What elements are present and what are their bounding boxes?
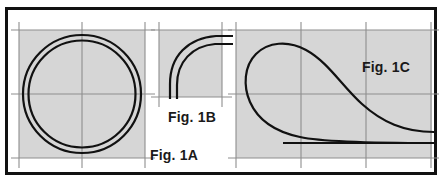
- fig-1a-label: Fig. 1A: [150, 147, 198, 163]
- panel-fig-1b-fill: [159, 30, 222, 97]
- figure-plate-canvas: Fig. 1A Fig. 1B Fig. 1C: [0, 0, 442, 182]
- panel-fig-1b: [151, 22, 233, 107]
- panel-fig-1c: [228, 22, 439, 168]
- fig-1b-label: Fig. 1B: [168, 109, 216, 125]
- figure-plate: Fig. 1A Fig. 1B Fig. 1C: [0, 0, 442, 182]
- panel-fig-1a: [11, 22, 155, 168]
- fig-1c-label: Fig. 1C: [362, 59, 410, 75]
